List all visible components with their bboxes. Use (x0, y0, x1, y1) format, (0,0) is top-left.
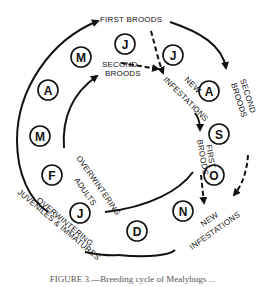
svg-text:J: J (170, 49, 177, 63)
svg-text:N: N (179, 205, 188, 219)
figure-caption: FIGURE 3.—Breeding cycle of Mealybugs ..… (0, 274, 265, 284)
svg-text:O: O (209, 169, 218, 183)
dashed-arrow-first-to-newinf (151, 31, 163, 73)
svg-text:J: J (122, 38, 129, 52)
svg-text:A: A (205, 85, 214, 99)
inner-arc-arrow (64, 76, 97, 148)
svg-text:J: J (77, 207, 84, 221)
month-jul: J (163, 45, 183, 65)
svg-text:S: S (215, 128, 223, 142)
label-first-broods-top: FIRST BROODS (100, 15, 162, 24)
breeding-cycle-diagram: J F M A M J J A S O N D FIRST BROODS SEC… (0, 0, 265, 287)
svg-text:F: F (48, 169, 55, 183)
outer-arc-arrow (17, 21, 98, 140)
month-sep: S (209, 124, 229, 144)
month-aug: A (199, 81, 219, 101)
month-mar: M (30, 126, 50, 146)
month-jan: J (70, 203, 90, 223)
month-feb: F (42, 165, 62, 185)
dashed-arrow-secondbroods-to-newinf (234, 155, 248, 195)
svg-text:M: M (35, 130, 45, 144)
month-dec: D (127, 221, 147, 241)
svg-text:D: D (133, 225, 142, 239)
month-apr: A (38, 80, 58, 100)
svg-text:M: M (76, 51, 86, 65)
month-jun: J (115, 34, 135, 54)
svg-text:A: A (44, 84, 53, 98)
outer-arc-bottom (118, 250, 175, 256)
month-may: M (71, 47, 91, 67)
label-second-broods-inner-1: SECOND (102, 60, 137, 69)
dashed-arrow-firstbroods-to-newinf (201, 175, 204, 203)
label-second-broods-inner-2: BROODS (105, 69, 141, 78)
month-nov: N (173, 201, 193, 221)
